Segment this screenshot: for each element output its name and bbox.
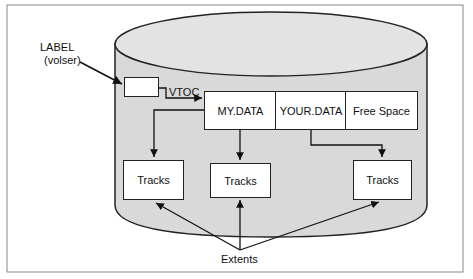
tracks-box-2: Tracks <box>210 163 271 198</box>
disk-cylinder-top <box>115 12 427 76</box>
tracks-box-3: Tracks <box>353 160 412 200</box>
dataset-your-data: YOUR.DATA <box>275 91 347 130</box>
dataset-my-data: MY.DATA <box>204 91 277 130</box>
extents-label: Extents <box>221 253 258 265</box>
label-callout-line1: LABEL <box>40 41 74 53</box>
tracks-box-1: Tracks <box>123 160 184 200</box>
dataset-free-space: Free Space <box>345 91 418 130</box>
volume-label-box <box>124 77 159 97</box>
label-callout-line2: (volser) <box>44 54 81 66</box>
vtoc-label: VTOC <box>169 86 199 98</box>
